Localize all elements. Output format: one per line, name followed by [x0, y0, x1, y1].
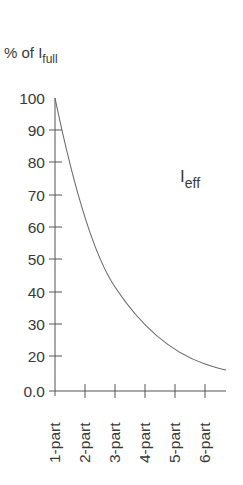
x-tick-1-part: 1-part [47, 423, 63, 464]
x-tick-2-part: 2-part [77, 423, 93, 464]
x-tick-6-part: 6-part [197, 423, 213, 464]
plot-area [0, 0, 243, 485]
series-line-ieff [55, 98, 226, 370]
x-tick-3-part: 3-part [107, 423, 123, 464]
x-tick-5-part: 5-part [167, 423, 183, 464]
x-tick-4-part: 4-part [137, 423, 153, 464]
